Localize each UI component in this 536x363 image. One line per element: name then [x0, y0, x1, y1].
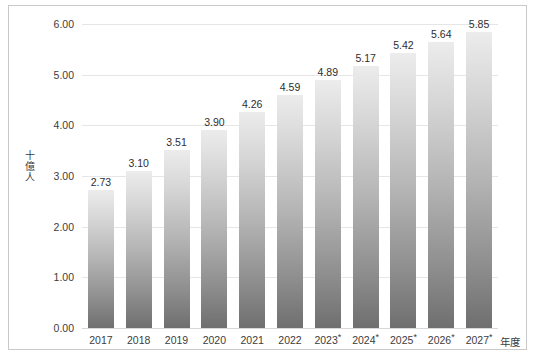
bar[interactable] — [164, 150, 190, 328]
y-tick-label: 6.00 — [34, 18, 74, 30]
bar-value-label: 5.64 — [418, 28, 464, 40]
plot-area: 2.733.103.513.904.264.594.895.175.425.64… — [82, 24, 498, 328]
source-strip — [10, 354, 230, 361]
y-tick-label: 3.00 — [34, 170, 74, 182]
y-tick-label: 5.00 — [34, 69, 74, 81]
bar[interactable] — [428, 42, 454, 328]
bar-value-label: 4.59 — [267, 81, 313, 93]
y-tick-label: 1.00 — [34, 271, 74, 283]
bar[interactable] — [88, 190, 114, 328]
bar-value-label: 5.42 — [380, 39, 426, 51]
bar-value-label: 5.85 — [456, 18, 502, 30]
y-tick-label: 4.00 — [34, 119, 74, 131]
bar-value-label: 3.90 — [191, 116, 237, 128]
bar[interactable] — [126, 171, 152, 328]
chart-container: 十 億 人 0.001.002.003.004.005.006.00 2.733… — [0, 0, 536, 363]
bar[interactable] — [277, 95, 303, 328]
bar-value-label: 3.10 — [116, 157, 162, 169]
y-tick-label: 2.00 — [34, 221, 74, 233]
bar[interactable] — [466, 32, 492, 328]
bar-value-label: 2.73 — [78, 176, 124, 188]
y-tick-label: 0.00 — [34, 322, 74, 334]
gridline-6.00 — [82, 24, 498, 25]
bar[interactable] — [390, 53, 416, 328]
gridline-0.00 — [82, 328, 498, 329]
bar[interactable] — [315, 80, 341, 328]
bar[interactable] — [239, 112, 265, 328]
bar[interactable] — [201, 130, 227, 328]
bar-value-label: 5.17 — [343, 52, 389, 64]
bar-value-label: 4.26 — [229, 98, 275, 110]
x-axis-unit-label: 年度 — [500, 334, 520, 349]
bar-value-label: 4.89 — [305, 66, 351, 78]
x-axis-tick-labels: 2017201820192020202120222023*2024*2025*2… — [82, 334, 498, 350]
x-tick-label: 2027* — [456, 334, 502, 346]
bar-value-label: 3.51 — [154, 136, 200, 148]
y-axis-tick-labels: 0.001.002.003.004.005.006.00 — [30, 24, 74, 328]
bar[interactable] — [353, 66, 379, 328]
